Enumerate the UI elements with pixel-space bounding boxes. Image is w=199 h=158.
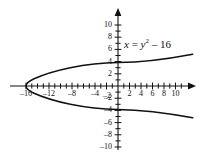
x-tick-label: –16: [20, 90, 32, 98]
y-tick-label: –4: [96, 106, 112, 114]
equation-annotation: x = y2 – 16: [124, 39, 171, 50]
x-tick-label: 6: [151, 90, 155, 98]
x-tick-label: 4: [139, 90, 143, 98]
y-tick-label: –10: [94, 143, 112, 151]
y-tick-label: 4: [96, 58, 112, 66]
axis-lines: [10, 8, 196, 150]
y-tick-label: 6: [96, 45, 112, 53]
y-tick-label: –8: [96, 131, 112, 139]
x-axis-arrowhead: [188, 83, 196, 90]
y-tick-label: –6: [96, 119, 112, 127]
y-axis-arrowhead: [115, 8, 122, 16]
y-tick-label: –2: [96, 94, 112, 102]
y-tick-label: 2: [96, 70, 112, 78]
equation-constant: 16: [160, 38, 171, 50]
x-tick-label: –8: [68, 90, 76, 98]
x-tick-label: –12: [43, 90, 55, 98]
graph-figure: x = y2 – 16 –16 –12 –8 –4 –2 2 4 6 8 10 …: [0, 0, 199, 158]
x-tick-label: 10: [172, 90, 180, 98]
x-tick-label: 2: [128, 90, 132, 98]
y-tick-label: 8: [96, 33, 112, 41]
x-tick-label: 8: [162, 90, 166, 98]
y-tick-label: 10: [96, 21, 112, 29]
